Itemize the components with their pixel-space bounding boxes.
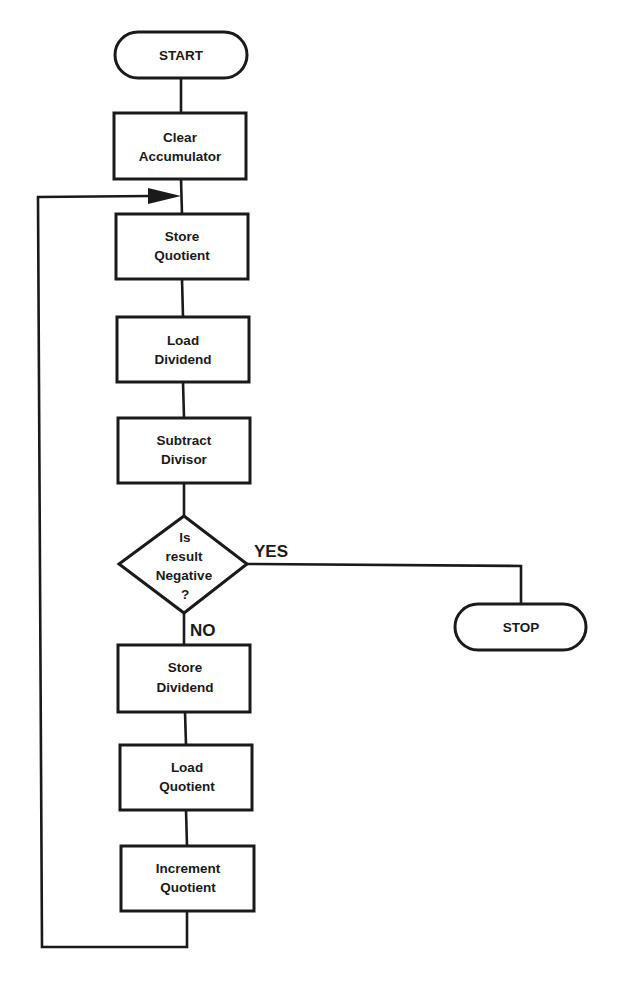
node-label-line-2: Quotient (160, 880, 216, 895)
node-label-line-2: Quotient (154, 248, 210, 263)
node-load-quotient: Load Quotient (120, 745, 252, 810)
node-label-line-1: Store (165, 229, 200, 244)
process-box (116, 214, 248, 279)
node-label-line-2: Divisor (161, 452, 208, 467)
node-label-line-1: Store (168, 660, 203, 675)
node-label-line-1: Load (167, 333, 199, 348)
connectors (38, 78, 521, 947)
process-box (117, 317, 249, 382)
node-label: STOP (503, 620, 540, 635)
node-label-line-1: Subtract (157, 433, 212, 448)
node-store-quotient: Store Quotient (116, 214, 248, 279)
node-label-line-2: Quotient (159, 779, 215, 794)
edge-store-dividend-to-load-quotient (185, 712, 186, 745)
edge-decision-yes-to-stop (247, 564, 521, 603)
node-stop: STOP (455, 604, 586, 650)
node-label-line-4: ? (181, 587, 189, 602)
edge-clear-to-store-quotient (181, 179, 182, 214)
node-label-line-2: Dividend (154, 352, 211, 367)
node-subtract-divisor: Subtract Divisor (118, 418, 250, 483)
node-increment-quotient: Increment Quotient (121, 846, 254, 911)
node-label-line-1: Increment (156, 861, 221, 876)
node-store-dividend: Store Dividend (118, 645, 250, 712)
node-label-line-3: Negative (156, 568, 213, 583)
node-label-line-1: Clear (163, 130, 198, 145)
process-box (114, 113, 246, 179)
edge-load-dividend-to-subtract (183, 382, 184, 418)
node-label: START (159, 48, 204, 63)
edge-store-quotient-to-load-dividend (182, 279, 183, 317)
node-label-line-2: Accumulator (139, 149, 222, 164)
node-load-dividend: Load Dividend (117, 317, 249, 382)
node-clear-accumulator: Clear Accumulator (114, 113, 246, 179)
loop-arrowhead-icon (148, 188, 181, 204)
branch-label-yes: YES (254, 542, 288, 561)
process-box (121, 846, 254, 911)
branch-label-no: NO (190, 621, 216, 640)
process-box (118, 418, 250, 483)
node-label-line-1: Is (179, 530, 190, 545)
process-box (118, 645, 250, 712)
flowchart: START Clear Accumulator Store Quotient L… (0, 0, 621, 985)
node-is-result-negative: Is result Negative ? (119, 516, 247, 613)
node-label-line-2: result (166, 549, 203, 564)
process-box (120, 745, 252, 810)
node-start: START (115, 32, 247, 78)
node-label-line-1: Load (171, 760, 203, 775)
node-label-line-2: Dividend (156, 680, 213, 695)
edge-load-quotient-to-increment (186, 810, 187, 846)
